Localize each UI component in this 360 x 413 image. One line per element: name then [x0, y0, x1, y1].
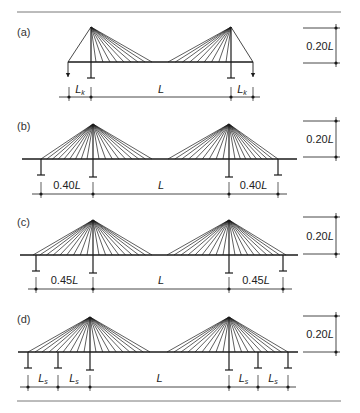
back-stay: [231, 27, 253, 62]
dimension-node: [334, 215, 337, 218]
panel-a: (a)LkLLk0.20L: [17, 24, 340, 101]
span-label: Ls: [38, 372, 48, 385]
stay-cable: [202, 124, 229, 159]
stay-cable: [229, 124, 278, 159]
span-label: 0.45L: [51, 274, 79, 286]
dimension-node: [88, 385, 91, 388]
dimension-node: [56, 385, 59, 388]
dimension-node: [34, 287, 37, 290]
stay-cable: [42, 317, 90, 352]
panel-label: (d): [17, 313, 30, 325]
stay-cable: [183, 27, 232, 62]
stay-cable: [63, 317, 90, 352]
stay-cable: [229, 317, 281, 352]
stay-cable: [202, 317, 229, 352]
stay-cable: [229, 220, 286, 255]
dimension-node: [334, 252, 337, 255]
stay-cable: [229, 317, 288, 352]
dimension-node: [334, 350, 337, 353]
dimension-node: [39, 192, 42, 195]
stay-cable: [167, 220, 229, 255]
span-label: L: [158, 179, 164, 191]
height-label: 0.20L: [306, 328, 334, 340]
span-label: 0.40L: [240, 179, 268, 191]
stay-cable: [175, 27, 231, 62]
stay-cable: [47, 220, 94, 255]
dimension-node: [89, 95, 92, 98]
stay-cable: [90, 317, 116, 352]
stay-cable: [93, 220, 119, 255]
stay-cable: [202, 220, 229, 255]
dimension-node: [286, 385, 289, 388]
stay-cable: [47, 124, 93, 159]
dimension-node: [334, 155, 337, 158]
stay-cable: [182, 124, 229, 159]
span-label: Ls: [268, 372, 278, 385]
stay-cable: [174, 220, 229, 255]
dimension-node: [256, 385, 259, 388]
stay-cable: [93, 124, 145, 159]
stay-cable: [90, 317, 150, 352]
span-label: Ls: [239, 372, 249, 385]
dimension-node: [67, 95, 70, 98]
span-label: L: [156, 372, 162, 384]
stay-cable: [229, 317, 268, 352]
span-label: L: [158, 83, 164, 95]
stay-cable: [229, 124, 273, 159]
stay-cable: [229, 317, 275, 352]
dimension-node: [251, 95, 254, 98]
dimension-node: [334, 61, 337, 64]
dimension-node: [26, 385, 29, 388]
stay-cable: [93, 220, 132, 255]
stay-cable: [181, 220, 229, 255]
panel-c: (c)0.45LL0.45L0.20L: [17, 213, 340, 293]
dimension-node: [227, 192, 230, 195]
stay-cable: [229, 220, 267, 255]
stay-cable: [93, 124, 119, 159]
dimension-node: [334, 314, 337, 317]
stay-cable: [53, 220, 93, 255]
height-label: 0.20L: [306, 230, 334, 242]
height-label: 0.20L: [306, 40, 334, 52]
dimension-node: [334, 119, 337, 122]
stay-cable: [91, 27, 138, 62]
dimension-node: [91, 192, 94, 195]
panel-d: (d)LsLsLLsLs0.20L: [17, 312, 340, 391]
stay-cable: [174, 317, 229, 352]
stay-cable: [90, 317, 143, 352]
stay-cable: [229, 317, 255, 352]
stay-cable: [41, 124, 93, 159]
stay-cable: [93, 124, 139, 159]
stay-cable: [40, 220, 93, 255]
stay-cable: [189, 124, 229, 159]
span-label: Lk: [75, 83, 85, 96]
arrow-down-icon: [66, 73, 70, 77]
dimension-node: [281, 287, 284, 290]
stay-cable: [91, 27, 145, 62]
stay-cable: [229, 124, 246, 159]
stay-cable: [229, 220, 273, 255]
dimension-node: [276, 192, 279, 195]
stay-cable: [229, 220, 280, 255]
stay-cable: [93, 220, 139, 255]
bridge-diagram: (a)LkLLk0.20L(b)0.40LL0.40L0.20L(c)0.45L…: [0, 0, 360, 413]
stay-cable: [175, 124, 229, 159]
stay-cable: [93, 124, 152, 159]
panel-b: (b)0.40LL0.40L0.20L: [17, 117, 340, 198]
stay-cable: [168, 124, 229, 159]
stay-cable: [67, 220, 93, 255]
panel-label: (c): [17, 216, 30, 228]
span-label: Ls: [69, 372, 79, 385]
dimension-node: [227, 287, 230, 290]
stay-cable: [229, 220, 254, 255]
span-label: 0.40L: [53, 179, 81, 191]
arrow-down-icon: [251, 73, 255, 77]
stay-cable: [35, 317, 90, 352]
stay-cable: [28, 317, 90, 352]
span-label: 0.45L: [242, 274, 270, 286]
span-label: L: [158, 274, 164, 286]
stay-cable: [90, 317, 130, 352]
stay-cable: [181, 317, 229, 352]
height-label: 0.20L: [306, 133, 334, 145]
dimension-node: [229, 95, 232, 98]
